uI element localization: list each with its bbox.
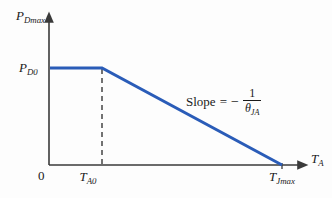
x-axis-label: TA: [311, 152, 324, 165]
slope-word: Slope: [186, 95, 216, 108]
origin-label: 0: [38, 169, 45, 182]
pd0-subscript: D0: [27, 67, 38, 77]
y-axis-label: PDmax: [16, 9, 45, 22]
derating-curve-figure: PDmax PD0 0 TA0 TJmax TA Slope = − 1 θJA: [0, 0, 332, 198]
pd0-symbol: P: [19, 60, 27, 75]
slope-fraction: 1 θJA: [243, 87, 262, 114]
slope-fraction-numerator: 1: [246, 87, 258, 100]
derating-curve: [50, 68, 282, 165]
theta-subscript: JA: [251, 108, 260, 117]
y-axis-label-subscript: Dmax: [24, 15, 45, 25]
x-axis-label-subscript: A: [318, 158, 323, 168]
slope-fraction-denominator: θJA: [243, 101, 262, 114]
ta0-subscript: A0: [87, 176, 97, 186]
tjmax-tick-label: TJmax: [269, 170, 295, 183]
theta-symbol: θ: [245, 101, 251, 115]
slope-annotation: Slope = − 1 θJA: [186, 88, 261, 115]
ta0-tick-label: TA0: [79, 170, 96, 183]
plot-canvas: [0, 0, 332, 198]
slope-minus-sign: −: [231, 95, 240, 109]
slope-equals-sign: =: [219, 95, 228, 108]
pd0-tick-label: PD0: [19, 61, 38, 74]
tjmax-subscript: Jmax: [276, 176, 295, 186]
y-axis-label-symbol: P: [16, 8, 24, 23]
